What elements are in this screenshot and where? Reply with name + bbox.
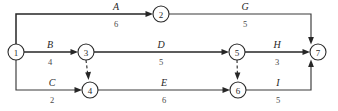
edge-I-arrowhead [308,60,314,68]
node-1[interactable]: 1 [8,44,24,60]
edge-dummy-3-4 [85,60,91,80]
edge-A-arrowhead [146,11,154,17]
node-3[interactable]: 3 [78,44,94,60]
edge-E-name: E [160,77,167,88]
edge-B-name: B [47,39,53,50]
edge-dummy-5-6 [235,60,241,80]
edge-H-arrowhead [303,49,311,55]
edge-D-arrowhead [222,49,230,55]
node-2[interactable]: 2 [153,6,169,22]
edge-E-arrowhead [223,87,231,93]
edge-C-arrowhead [75,87,83,93]
node-7-label: 7 [316,48,321,58]
node-5[interactable]: 5 [229,44,245,60]
node-6-label: 6 [236,86,241,96]
edge-B-arrowhead [71,49,79,55]
edge-H-name: H [272,39,281,50]
edge-G-name: G [241,1,248,12]
edge-I [246,60,314,91]
edge-D-name: D [156,39,165,50]
edge-G [169,14,314,45]
edge-A-path [16,14,150,44]
edge-I-duration: 5 [276,95,280,105]
node-7[interactable]: 7 [310,44,326,60]
node-6[interactable]: 6 [230,82,246,98]
node-1-label: 1 [14,48,19,58]
node-2-label: 2 [159,10,164,20]
edge-dummy-5-6-arrowhead [235,73,241,81]
node-5-label: 5 [235,48,240,58]
edge-C-name: C [49,77,56,88]
edge-G-arrowhead [308,37,314,45]
edge-A [16,11,153,44]
node-4[interactable]: 4 [82,82,98,98]
edge-dummy-3-4-arrowhead [85,72,91,80]
edge-G-duration: 5 [243,19,247,29]
edge-G-path [169,14,311,41]
edge-B-duration: 4 [48,57,53,67]
node-3-label: 3 [84,48,89,58]
network-diagram-svg: 1 2 3 4 5 6 7 A 6 G 5 [0,0,338,111]
edge-A-name: A [112,1,120,12]
network-diagram-canvas: 1 2 3 4 5 6 7 A 6 G 5 [0,0,338,111]
node-4-label: 4 [88,86,93,96]
edge-I-name: I [275,77,280,88]
edge-C-duration: 2 [50,95,54,105]
edge-E-duration: 6 [162,95,166,105]
edge-H-duration: 3 [275,57,279,67]
edge-D-duration: 5 [159,57,163,67]
edge-A-duration: 6 [114,19,118,29]
